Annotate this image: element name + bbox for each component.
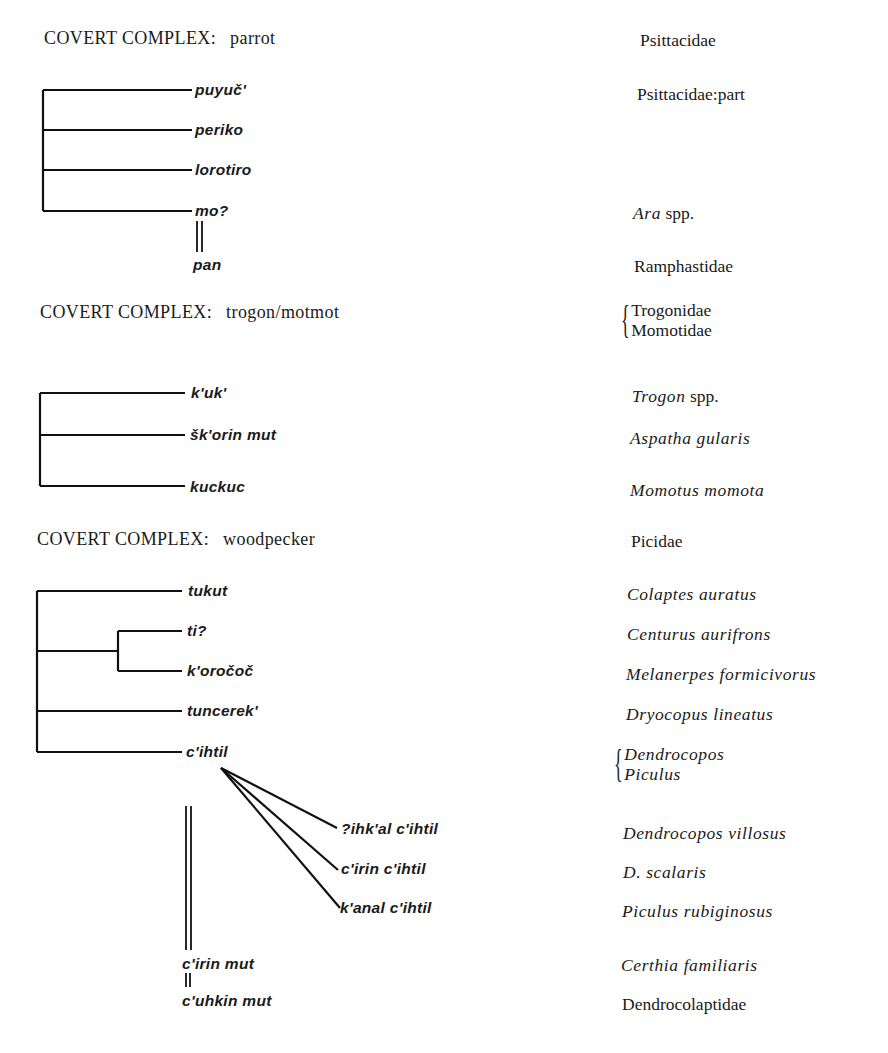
term-mo: mo? [195,202,229,220]
gloss-melanerpes-formicivorus: Melanerpes formicivorus [626,664,816,684]
heading-name: trogon/motmot [226,302,339,322]
parrot-tree [43,90,202,252]
gloss-rest: spp. [665,203,694,223]
term-cuhkin-mut: c'uhkin mut [182,992,272,1010]
gloss-genus: Trogon [632,386,686,406]
gloss-text: Momotus momota [630,480,764,500]
brace-icon: { [621,300,630,340]
heading-label: COVERT COMPLEX: [37,529,209,549]
family-brace-trogonidae-momotidae: { Trogonidae Momotidae [621,300,712,340]
term-periko: periko [195,121,243,139]
gloss-text: Colaptes auratus [627,584,757,604]
gloss-text: Certhia familiaris [621,955,758,975]
gloss-text: Centurus aurifrons [627,624,771,644]
term-kuk: k'uk' [191,384,227,402]
woodpecker-tree [37,591,340,987]
term-pan: pan [193,256,221,274]
gloss-text: Piculus rubiginosus [622,901,773,921]
gloss-colaptes-auratus: Colaptes auratus [627,584,757,604]
gloss-certhia-familiaris: Certhia familiaris [621,955,758,975]
gloss-text: Melanerpes formicivorus [626,664,816,684]
gloss-brace-dendrocopos-piculus: { Dendrocopos Piculus [614,744,724,784]
gloss-ramphastidae: Ramphastidae [634,256,733,276]
gloss-dendrocopos-villosus: Dendrocopos villosus [623,823,787,843]
heading-label: COVERT COMPLEX: [44,28,216,48]
gloss-text: Dryocopus lineatus [626,704,773,724]
term-tuncerek: tuncerek' [187,702,258,720]
gloss-d-scalaris: D. scalaris [623,862,706,882]
term-puyuc: puyuč' [195,81,246,99]
gloss-aspatha-gularis: Aspatha gularis [630,428,750,448]
gloss-dendrocopos: Dendrocopos [624,744,724,764]
section-heading-parrot: COVERT COMPLEX:parrot [44,28,276,49]
family-picidae: Picidae [631,531,683,551]
term-ti: ti? [187,622,207,640]
heading-label: COVERT COMPLEX: [40,302,212,322]
gloss-text: Dendrocopos villosus [623,823,787,843]
gloss-text: D. scalaris [623,862,706,882]
gloss-trogon-spp: Trogon spp. [632,386,719,406]
term-kanal-cihtil: k'anal c'ihtil [340,899,432,917]
heading-name: woodpecker [223,529,315,549]
family-trogonidae: Trogonidae [631,300,712,320]
gloss-ara-spp: Ara spp. [633,203,694,223]
gloss-dendrocolaptidae: Dendrocolaptidae [622,994,746,1014]
trogon-motmot-tree [40,393,185,486]
heading-name: parrot [230,28,275,48]
taxonomy-tree-lines [0,0,888,1053]
term-korococ: k'oročoč [187,662,253,680]
gloss-piculus-rubiginosus: Piculus rubiginosus [622,901,773,921]
term-kuckuc: kuckuc [190,478,245,496]
family-momotidae: Momotidae [631,320,712,340]
gloss-rest: spp. [690,386,719,406]
term-skorin-mut: šk'orin mut [190,426,276,444]
gloss-dryocopus-lineatus: Dryocopus lineatus [626,704,773,724]
family-psittacidae: Psittacidae [640,30,716,50]
gloss-momotus-momota: Momotus momota [630,480,764,500]
term-lorotiro: lorotiro [195,161,252,179]
term-tukut: tukut [188,582,227,600]
term-ihkal-cihtil: ?ihk'al c'ihtil [341,820,438,838]
gloss-text: Aspatha gularis [630,428,750,448]
term-cihtil: c'ihtil [186,743,228,761]
term-cirin-mut: c'irin mut [182,955,254,973]
section-heading-trogon-motmot: COVERT COMPLEX:trogon/motmot [40,302,339,323]
section-heading-woodpecker: COVERT COMPLEX:woodpecker [37,529,315,550]
brace-icon: { [614,744,623,784]
term-cirin-cihtil: c'irin c'ihtil [341,860,426,878]
gloss-genus: Ara [633,203,661,223]
gloss-psittacidae-part: Psittacidae:part [637,84,745,104]
gloss-piculus: Piculus [624,764,724,784]
gloss-centurus-aurifrons: Centurus aurifrons [627,624,771,644]
